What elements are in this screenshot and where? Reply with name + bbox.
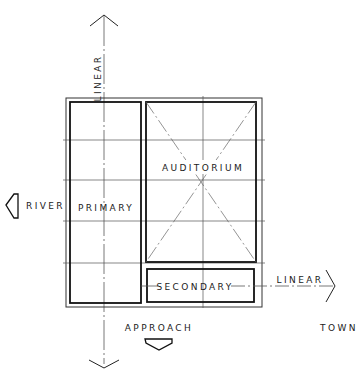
river-label: RIVER (26, 201, 65, 211)
approach-arrow-down-icon (145, 339, 172, 350)
horizontal-linear-label: LINEAR (277, 275, 324, 285)
town-label: TOWN (319, 323, 358, 333)
auditorium-label: AUDITORIUM (162, 163, 244, 173)
secondary-label: SECONDARY (156, 282, 233, 292)
approach-label: APPROACH (125, 323, 193, 333)
site-diagram: LINEAR PRIMARY AUDITORIUM SECONDARY LINE… (0, 0, 361, 374)
river-arrow-left-icon (6, 194, 18, 218)
auditorium-diagonals (146, 102, 256, 262)
vertical-linear-label: LINEAR (93, 55, 103, 102)
primary-label: PRIMARY (78, 203, 134, 213)
